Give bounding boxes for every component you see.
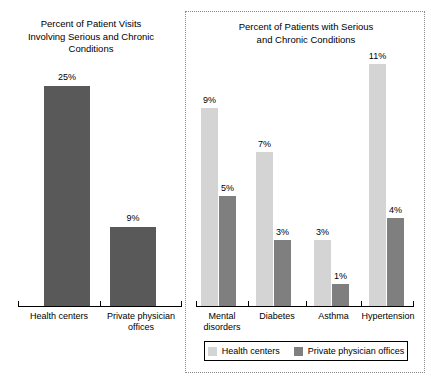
bar-label-diabetes-health-centers: 7% bbox=[251, 139, 278, 149]
left-axis-tick-1 bbox=[100, 301, 101, 307]
bar-asthma-private-offices[interactable] bbox=[332, 284, 349, 306]
right-category-label-asthma: Asthma bbox=[306, 311, 361, 322]
bar-private-physician-offices[interactable] bbox=[110, 227, 156, 306]
bar-label-diabetes-private-offices: 3% bbox=[269, 227, 296, 237]
right-axis-cap-end bbox=[413, 301, 414, 307]
bar-hypertension-health-centers[interactable] bbox=[369, 64, 386, 306]
bar-label-mental-disorders-health-centers: 9% bbox=[196, 95, 223, 105]
right-axis-line bbox=[196, 306, 414, 307]
legend-swatch-health-centers bbox=[208, 347, 217, 356]
legend-item-private-physician-offices[interactable]: Private physician offices bbox=[294, 346, 404, 356]
right-category-label-hypertension: Hypertension bbox=[359, 311, 417, 322]
left-axis-cap-start bbox=[18, 301, 19, 307]
legend-item-health-centers[interactable]: Health centers bbox=[208, 346, 280, 356]
bar-label-asthma-health-centers: 3% bbox=[309, 227, 336, 237]
legend-swatch-private-physician-offices bbox=[294, 347, 303, 356]
bar-label-private-physician-offices: 9% bbox=[110, 213, 156, 223]
left-axis-cap-end bbox=[181, 301, 182, 307]
bar-label-hypertension-private-offices: 4% bbox=[382, 205, 409, 215]
left-category-label-private-physician-offices: Private physician offices bbox=[100, 311, 182, 333]
right-axis-tick-2 bbox=[306, 301, 307, 307]
left-category-label-health-centers: Health centers bbox=[18, 311, 100, 322]
right-plot-area: 9% 5% 7% 3% 3% 1% 11% 4% bbox=[186, 12, 424, 306]
bar-mental-disorders-private-offices[interactable] bbox=[219, 196, 236, 306]
bar-label-mental-disorders-private-offices: 5% bbox=[214, 183, 241, 193]
bar-mental-disorders-health-centers[interactable] bbox=[201, 108, 218, 306]
bar-label-health-centers: 25% bbox=[44, 72, 90, 82]
legend-label-health-centers: Health centers bbox=[222, 346, 280, 356]
bar-diabetes-private-offices[interactable] bbox=[274, 240, 291, 306]
bar-hypertension-private-offices[interactable] bbox=[387, 218, 404, 306]
right-chart-panel: Percent of Patients with Serious and Chr… bbox=[185, 11, 425, 373]
right-category-label-mental-disorders: Mental disorders bbox=[196, 311, 248, 333]
bar-label-hypertension-health-centers: 11% bbox=[362, 51, 393, 61]
bar-label-asthma-private-offices: 1% bbox=[327, 271, 354, 281]
right-chart-legend: Health centers Private physician offices bbox=[204, 341, 408, 361]
right-axis-tick-1 bbox=[248, 301, 249, 307]
left-plot-area: 25% 9% bbox=[0, 0, 182, 306]
legend-label-private-physician-offices: Private physician offices bbox=[308, 346, 404, 356]
bar-health-centers[interactable] bbox=[44, 86, 90, 306]
right-category-label-diabetes: Diabetes bbox=[248, 311, 306, 322]
left-chart-panel: Percent of Patient Visits Involving Seri… bbox=[0, 0, 182, 381]
right-axis-tick-3 bbox=[361, 301, 362, 307]
right-axis-cap-start bbox=[196, 301, 197, 307]
